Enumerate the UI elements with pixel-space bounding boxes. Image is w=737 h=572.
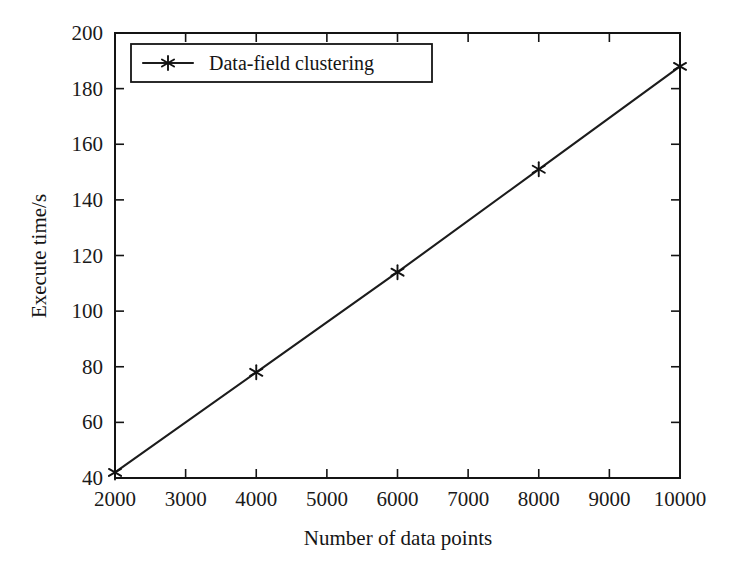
x-tick-label-10000: 10000 [654,487,707,511]
y-tick-label-140: 140 [72,188,104,212]
x-tick-label-2000: 2000 [94,487,136,511]
x-axis-tick-labels: 2000300040005000600070008000900010000 [94,487,706,511]
y-tick-label-60: 60 [82,410,103,434]
x-tick-label-8000: 8000 [518,487,560,511]
legend-label-text: Data-field clustering [209,52,374,75]
y-tick-label-80: 80 [82,355,103,379]
x-tick-label-4000: 4000 [235,487,277,511]
chart-legend: Data-field clustering [131,44,432,82]
y-tick-label-200: 200 [72,21,104,45]
x-tick-label-3000: 3000 [165,487,207,511]
x-axis-title: Number of data points [304,526,492,550]
x-tick-label-5000: 5000 [306,487,348,511]
y-tick-label-120: 120 [72,244,104,268]
x-tick-label-9000: 9000 [588,487,630,511]
y-tick-label-180: 180 [72,77,104,101]
y-tick-label-160: 160 [72,132,104,156]
line-chart: 406080100120140160180200 200030004000500… [0,0,737,572]
x-tick-label-6000: 6000 [377,487,419,511]
y-axis-title: Execute time/s [27,194,51,318]
x-tick-label-7000: 7000 [447,487,489,511]
y-tick-label-100: 100 [72,299,104,323]
chart-figure: 406080100120140160180200 200030004000500… [0,0,737,572]
